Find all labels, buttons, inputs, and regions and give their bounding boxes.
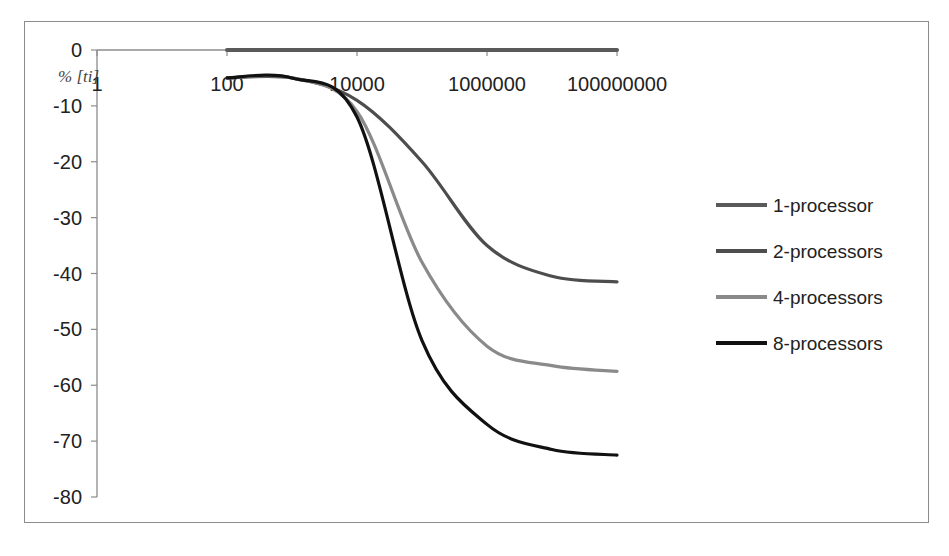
legend: 1-processor2-processors4-processors8-pro… xyxy=(716,195,883,354)
x-tick-label: 1000000 xyxy=(448,73,526,95)
y-axis-ticks: 0-10-20-30-40-50-60-70-80 xyxy=(53,39,97,508)
x-axis-ticks: 1100100001000000100000000 xyxy=(91,50,667,95)
y-tick-label: -80 xyxy=(53,486,82,508)
y-tick-label: -20 xyxy=(53,151,82,173)
series-line-2-processors xyxy=(227,76,617,282)
y-tick-label: -30 xyxy=(53,207,82,229)
y-axis-label: % [ti] xyxy=(58,67,99,86)
legend-label: 4-processors xyxy=(773,287,883,308)
series-line-4-processors xyxy=(227,75,617,371)
y-tick-label: -50 xyxy=(53,318,82,340)
y-tick-label: 0 xyxy=(71,39,82,61)
y-tick-label: -70 xyxy=(53,430,82,452)
legend-label: 8-processors xyxy=(773,333,883,354)
y-tick-label: -10 xyxy=(53,95,82,117)
series-lines xyxy=(227,50,617,455)
legend-label: 2-processors xyxy=(773,241,883,262)
legend-label: 1-processor xyxy=(773,195,874,216)
y-tick-label: -60 xyxy=(53,374,82,396)
line-chart: 0-10-20-30-40-50-60-70-80 11001000010000… xyxy=(0,0,949,556)
y-tick-label: -40 xyxy=(53,263,82,285)
x-tick-label: 100000000 xyxy=(567,73,667,95)
